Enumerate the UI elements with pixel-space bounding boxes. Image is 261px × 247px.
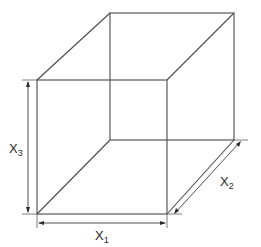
- box-dimension-diagram: X3 X1 X2: [0, 0, 261, 247]
- dimension-x2: X2: [167, 140, 248, 214]
- arrowhead-down-icon: [26, 207, 30, 213]
- label-x2: X2: [220, 174, 234, 191]
- edge-top-right: [167, 13, 234, 80]
- edge-bottom-left: [37, 140, 110, 214]
- arrowhead-right-icon: [160, 221, 166, 225]
- label-x3: X3: [9, 141, 23, 158]
- box-wireframe: [37, 13, 234, 214]
- arrowhead-up-icon: [26, 81, 30, 87]
- dimension-x1: X1: [37, 214, 167, 245]
- dimension-line-x2: [175, 142, 240, 213]
- dimension-x3: X3: [9, 80, 37, 214]
- label-x1: X1: [95, 228, 109, 245]
- edge-top-left: [37, 13, 110, 80]
- arrowhead-left-icon: [38, 221, 44, 225]
